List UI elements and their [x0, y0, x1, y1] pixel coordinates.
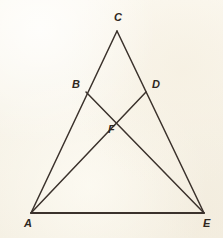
segments-group — [31, 31, 204, 213]
segment-ac — [31, 31, 117, 213]
vertex-label-c: C — [114, 12, 122, 23]
vertex-label-b: B — [72, 79, 80, 90]
segment-ad — [31, 92, 146, 213]
segment-be — [86, 92, 204, 213]
vertex-label-f: F — [108, 124, 115, 135]
vertex-label-e: E — [203, 218, 210, 229]
vertex-label-d: D — [152, 79, 160, 90]
vertex-label-a: A — [24, 218, 32, 229]
geometry-figure: CBDFAE — [0, 0, 223, 238]
segment-ce — [117, 31, 204, 213]
figure-canvas — [0, 0, 223, 238]
